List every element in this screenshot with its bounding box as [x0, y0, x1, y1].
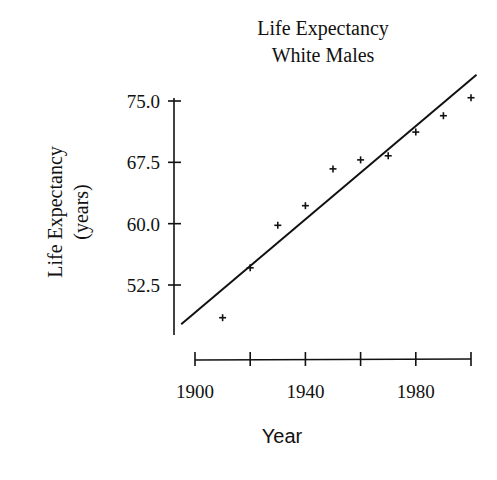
chart-title-line-1: Life Expectancy [257, 17, 389, 40]
data-point [330, 165, 337, 172]
x-axis: 190019401980 [176, 352, 471, 402]
y-tick-label: 75.0 [127, 91, 160, 112]
y-axis-label-line-2: (years) [70, 184, 93, 240]
x-axis-label: Year [262, 425, 303, 447]
data-point [412, 129, 419, 136]
chart-title: Life Expectancy White Males [257, 17, 389, 66]
y-axis-label: Life Expectancy (years) [44, 146, 93, 278]
chart: Life Expectancy White Males Life Expecta… [0, 0, 497, 480]
data-point [247, 264, 254, 271]
data-point [274, 222, 281, 229]
y-tick-label: 60.0 [127, 214, 160, 235]
data-point [440, 112, 447, 119]
data-points [219, 94, 474, 321]
y-tick-label: 67.5 [127, 152, 160, 173]
y-axis-label-line-1: Life Expectancy [44, 146, 67, 278]
data-point [468, 94, 475, 101]
y-tick-label: 52.5 [127, 275, 160, 296]
x-tick-label: 1980 [397, 381, 435, 402]
x-tick-label: 1940 [286, 381, 324, 402]
data-point [219, 314, 226, 321]
data-point [385, 152, 392, 159]
data-point [357, 156, 364, 163]
chart-title-line-2: White Males [272, 44, 375, 66]
data-point [302, 202, 309, 209]
regression-line [181, 75, 476, 324]
y-axis: 52.560.067.575.0 [127, 91, 181, 335]
x-tick-label: 1900 [176, 381, 214, 402]
